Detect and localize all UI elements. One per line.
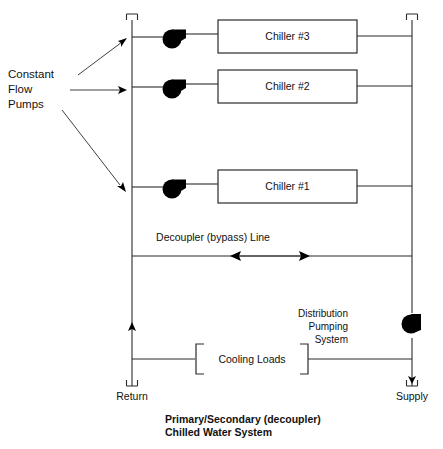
cooling-loads-bracket-left — [196, 344, 204, 374]
chiller-1-pump-icon — [163, 180, 187, 199]
callout-arrow-to-pump-2 — [70, 86, 127, 94]
decoupler-line-group: Decoupler (bypass) Line — [132, 231, 412, 261]
supply-terminal-label: Supply — [396, 390, 429, 402]
constant-flow-pumps-label-line1: Constant — [8, 68, 55, 80]
decoupler-line-label: Decoupler (bypass) Line — [156, 231, 270, 243]
distribution-pumping-label-line3: System — [315, 334, 348, 345]
callout-arrow-to-pump-3 — [78, 38, 127, 75]
cooling-loads-branch: Cooling Loads — [132, 344, 412, 374]
chiller-branch-3: Chiller #3 — [132, 20, 412, 53]
return-terminal-label: Return — [116, 390, 148, 402]
chiller-branch-1: Chiller #1 — [132, 170, 412, 203]
distribution-pumping-label-line1: Distribution — [298, 308, 348, 319]
chiller-branch-2: Chiller #2 — [132, 70, 412, 103]
diagram-caption-line1: Primary/Secondary (decoupler) — [165, 413, 321, 425]
callout-arrow-to-pump-1 — [62, 110, 126, 192]
distribution-pump-icon — [402, 314, 422, 334]
chiller-3-pump-icon — [163, 30, 187, 49]
left-top-cap-icon — [127, 14, 138, 20]
cooling-loads-label: Cooling Loads — [218, 353, 285, 365]
chiller-3-label: Chiller #3 — [265, 30, 310, 42]
constant-flow-pumps-label-line3: Pumps — [8, 98, 44, 110]
decoupler-double-arrow-icon — [230, 251, 310, 261]
schematic-canvas: Chiller #3 Chiller #2 Chiller #1 — [0, 0, 443, 449]
chilled-water-system-diagram: Chiller #3 Chiller #2 Chiller #1 — [0, 0, 443, 449]
diagram-caption-line2: Chilled Water System — [165, 426, 272, 438]
chiller-2-pump-icon — [163, 80, 187, 99]
constant-flow-pumps-label-line2: Flow — [8, 83, 33, 95]
cooling-loads-bracket-right — [300, 344, 308, 374]
chiller-2-label: Chiller #2 — [265, 80, 310, 92]
right-top-cap-icon — [407, 14, 418, 20]
left-riser-group — [127, 14, 138, 386]
chiller-1-label: Chiller #1 — [265, 180, 310, 192]
distribution-pumping-label-line2: Pumping — [309, 321, 348, 332]
